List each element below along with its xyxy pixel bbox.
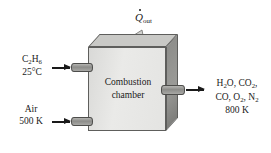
air-inlet-arrow-icon xyxy=(52,121,70,123)
products-stream-label: H2O, CO2, CO, O2, N2 800 K xyxy=(205,77,269,117)
products-temperature: 800 K xyxy=(205,104,269,117)
fuel-inlet-pipe xyxy=(71,63,93,72)
products-line-1: H2O, CO2, xyxy=(205,77,269,91)
fuel-temperature: 25°C xyxy=(12,66,52,78)
air-inlet-pipe xyxy=(71,117,93,126)
combustion-chamber-box: Combustion chamber xyxy=(88,47,166,131)
fuel-inlet-arrow-icon xyxy=(52,67,70,69)
chamber-label: Combustion chamber xyxy=(89,76,167,101)
fuel-formula: C2H6 xyxy=(12,53,52,66)
chamber-top-face xyxy=(88,34,178,47)
products-outlet-pipe xyxy=(161,85,185,95)
combustion-chamber-diagram: Qout Combustion chamber C2H6 25°C Air 50… xyxy=(0,0,271,153)
air-name: Air xyxy=(8,103,54,115)
q-symbol: Q xyxy=(135,11,143,23)
air-temperature: 500 K xyxy=(8,115,54,127)
chamber-label-line2: chamber xyxy=(89,89,167,102)
products-outlet-arrow-icon xyxy=(186,89,204,91)
chamber-label-line1: Combustion xyxy=(89,76,167,89)
heat-out-label: Qout xyxy=(135,11,152,23)
products-line-2: CO, O2, N2 xyxy=(205,91,269,105)
chamber-side-face xyxy=(166,34,178,131)
fuel-stream-label: C2H6 25°C xyxy=(12,53,52,78)
chamber-front-face: Combustion chamber xyxy=(88,47,166,131)
air-stream-label: Air 500 K xyxy=(8,103,54,127)
